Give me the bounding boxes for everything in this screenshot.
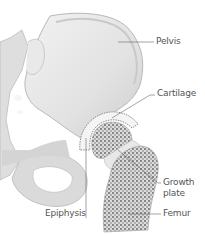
label-growth-plate: Growth plate xyxy=(163,177,194,199)
hip-joint-diagram: Pelvis Cartilage Growth plate Epiphysis … xyxy=(0,0,205,236)
label-cartilage: Cartilage xyxy=(157,88,196,99)
label-growth-plate-line1: Growth xyxy=(163,177,194,188)
label-pelvis: Pelvis xyxy=(156,36,180,47)
label-epiphysis: Epiphysis xyxy=(45,208,86,219)
label-growth-plate-line2: plate xyxy=(163,188,194,199)
label-femur: Femur xyxy=(163,208,190,219)
